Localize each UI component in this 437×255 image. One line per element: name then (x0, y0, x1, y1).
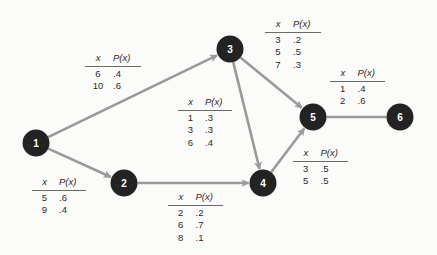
cell-px: .4 (203, 137, 232, 150)
cell-px: .3 (203, 112, 232, 125)
cell-x: 3 (293, 163, 319, 176)
cell-x: 7 (265, 59, 291, 72)
cell-px: .2 (194, 207, 223, 220)
table-row: 6.4 (85, 68, 141, 81)
cell-x: 8 (168, 232, 194, 245)
header-x: x (178, 96, 203, 109)
cell-x: 9 (32, 204, 57, 217)
edge-3-4 (233, 62, 259, 169)
table-rule (265, 32, 321, 33)
table-row: 5.5 (293, 175, 348, 188)
header-px: P(x) (111, 52, 141, 65)
prob-table-5-6: xP(x)1.42.6 (330, 67, 385, 108)
table-row: 3.3 (178, 124, 232, 137)
header-px: P(x) (194, 191, 223, 204)
table-header: xP(x) (168, 191, 223, 204)
table-row: 3.5 (293, 163, 348, 176)
cell-x: 5 (293, 175, 319, 188)
cell-px: .3 (291, 59, 321, 72)
cell-px: .5 (319, 175, 348, 188)
table-row: 3.2 (265, 34, 321, 47)
header-x: x (168, 191, 194, 204)
header-px: P(x) (291, 18, 321, 31)
prob-table-3-4: xP(x)1.33.36.4 (178, 96, 232, 149)
table-header: xP(x) (178, 96, 232, 109)
table-row: 7.3 (265, 59, 321, 72)
table-row: 8.1 (168, 232, 223, 245)
header-x: x (32, 176, 57, 189)
header-x: x (330, 67, 356, 80)
cell-px: .2 (291, 34, 321, 47)
cell-x: 6 (85, 68, 111, 81)
cell-px: .3 (203, 124, 232, 137)
node-3: 3 (217, 36, 244, 63)
table-rule (85, 66, 141, 67)
node-label: 4 (260, 178, 266, 189)
table-header: xP(x) (293, 147, 348, 160)
prob-table-1-3: xP(x)6.410.6 (85, 52, 141, 93)
table-rule (168, 205, 223, 206)
cell-px: .6 (111, 80, 141, 93)
table-row: 1.3 (178, 112, 232, 125)
header-px: P(x) (319, 147, 348, 160)
node-6: 6 (387, 104, 414, 131)
cell-x: 5 (265, 46, 291, 59)
header-x: x (293, 147, 319, 160)
cell-x: 6 (168, 219, 194, 232)
header-x: x (85, 52, 111, 65)
prob-table-3-5: xP(x)3.25.57.3 (265, 18, 321, 71)
cell-x: 10 (85, 80, 111, 93)
table-row: 6.4 (178, 137, 232, 150)
table-header: xP(x) (330, 67, 385, 80)
cell-px: .5 (319, 163, 348, 176)
table-rule (293, 161, 348, 162)
table-rule (330, 81, 385, 82)
table-row: 5.6 (32, 192, 86, 205)
table-row: 2.6 (330, 95, 385, 108)
node-5: 5 (300, 104, 327, 131)
cell-x: 1 (178, 112, 203, 125)
table-row: 10.6 (85, 80, 141, 93)
node-4: 4 (250, 170, 277, 197)
cell-x: 5 (32, 192, 57, 205)
table-row: 5.5 (265, 46, 321, 59)
table-header: xP(x) (85, 52, 141, 65)
cell-x: 2 (168, 207, 194, 220)
header-px: P(x) (356, 67, 385, 80)
cell-px: .7 (194, 219, 223, 232)
cell-x: 3 (265, 34, 291, 47)
table-row: 6.7 (168, 219, 223, 232)
table-row: 9.4 (32, 204, 86, 217)
node-label: 1 (33, 138, 39, 149)
header-px: P(x) (203, 96, 232, 109)
table-row: 1.4 (330, 83, 385, 96)
table-header: xP(x) (32, 176, 86, 189)
node-label: 6 (397, 112, 403, 123)
cell-x: 3 (178, 124, 203, 137)
table-rule (32, 190, 86, 191)
node-label: 3 (227, 44, 233, 55)
node-label: 2 (121, 178, 127, 189)
node-2: 2 (111, 170, 138, 197)
cell-px: .4 (57, 204, 86, 217)
prob-table-2-4: xP(x)2.26.78.1 (168, 191, 223, 244)
prob-table-4-5: xP(x)3.55.5 (293, 147, 348, 188)
edge-1-2 (48, 149, 111, 177)
cell-x: 2 (330, 95, 356, 108)
cell-px: .4 (356, 83, 385, 96)
cell-x: 6 (178, 137, 203, 150)
table-header: xP(x) (265, 18, 321, 31)
prob-table-1-2: xP(x)5.69.4 (32, 176, 86, 217)
node-1: 1 (23, 130, 50, 157)
node-label: 5 (310, 112, 316, 123)
header-px: P(x) (57, 176, 86, 189)
cell-px: .6 (57, 192, 86, 205)
cell-px: .1 (194, 232, 223, 245)
cell-x: 1 (330, 83, 356, 96)
table-rule (178, 110, 232, 111)
header-x: x (265, 18, 291, 31)
table-row: 2.2 (168, 207, 223, 220)
cell-px: .5 (291, 46, 321, 59)
cell-px: .4 (111, 68, 141, 81)
cell-px: .6 (356, 95, 385, 108)
